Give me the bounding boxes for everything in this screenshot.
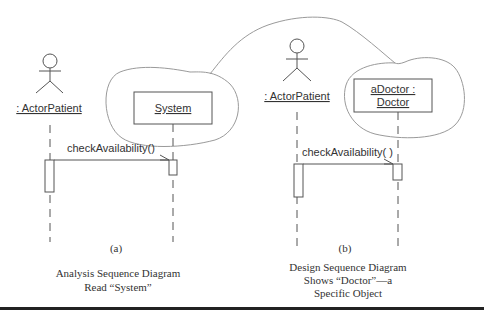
connector-curve bbox=[210, 17, 395, 74]
caption-a-line2: Read “System” bbox=[84, 281, 152, 293]
arrowhead-icon bbox=[384, 159, 393, 164]
caption-b-line1: Design Sequence Diagram bbox=[289, 261, 407, 273]
activation-bar-system bbox=[169, 160, 177, 175]
bottom-rule bbox=[0, 307, 484, 310]
panel-tag-b: (b) bbox=[339, 242, 352, 255]
sequence-diagrams-canvas: : ActorPatient System checkAvailability(… bbox=[0, 0, 484, 315]
activation-bar-doctor bbox=[393, 164, 402, 180]
activation-bar-actor-b bbox=[294, 164, 303, 197]
caption-b-line2: Shows “Doctor”—a bbox=[304, 274, 392, 286]
object-label-doctor-line1: aDoctor : bbox=[371, 83, 416, 95]
object-label-doctor-line2: Doctor bbox=[377, 96, 410, 108]
caption-b-line3: Specific Object bbox=[314, 287, 382, 299]
diagram-b: : ActorPatient aDoctor : Doctor checkAva… bbox=[264, 39, 464, 299]
message-label-b: checkAvailability( ) bbox=[302, 146, 393, 158]
diagram-a: : ActorPatient System checkAvailability(… bbox=[16, 54, 238, 293]
activation-bar-actor-a bbox=[45, 160, 54, 192]
actor-icon bbox=[283, 39, 311, 81]
actor-label-b: : ActorPatient bbox=[264, 90, 329, 102]
object-label-system: System bbox=[155, 102, 192, 114]
panel-tag-a: (a) bbox=[110, 242, 123, 255]
actor-icon bbox=[36, 54, 63, 93]
message-label-a: checkAvailability() bbox=[67, 142, 155, 154]
caption-a-line1: Analysis Sequence Diagram bbox=[56, 267, 181, 279]
actor-label-a: : ActorPatient bbox=[16, 102, 81, 114]
arrowhead-icon bbox=[160, 155, 169, 160]
